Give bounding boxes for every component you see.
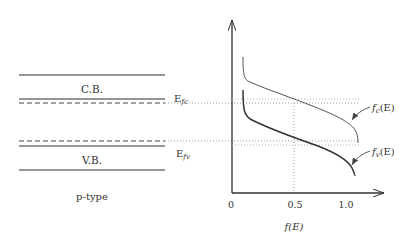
x-tick-0-5: 0.5 <box>287 199 302 210</box>
band-and-distribution-diagram: C.B. V.B. Efc Efv p-type <box>0 0 414 245</box>
x-tick-0: 0 <box>228 199 234 210</box>
x-tick-1-0: 1.0 <box>338 199 353 210</box>
x-axis-label: f(E) <box>284 221 304 232</box>
conduction-band-label: C.B. <box>81 83 103 95</box>
fermi-v-label: Efv <box>176 148 190 161</box>
valence-band-label: V.B. <box>81 154 102 166</box>
distribution-plot: fc(E) fv(E) 0 0.5 1.0 f(E) <box>228 20 395 232</box>
fc-annotation-arrow <box>352 107 370 120</box>
band-diagram: C.B. V.B. Efc Efv p-type <box>19 75 360 202</box>
diagram-canvas: C.B. V.B. Efc Efv p-type <box>0 0 414 245</box>
fv-curve-label: fv(E) <box>371 146 395 159</box>
fc-curve-label: fc(E) <box>371 102 395 115</box>
fv-curve <box>243 90 355 175</box>
p-type-label: p-type <box>76 191 108 202</box>
fermi-c-label: Efc <box>174 93 188 106</box>
fc-curve <box>243 57 358 143</box>
fv-annotation-arrow <box>352 151 370 165</box>
